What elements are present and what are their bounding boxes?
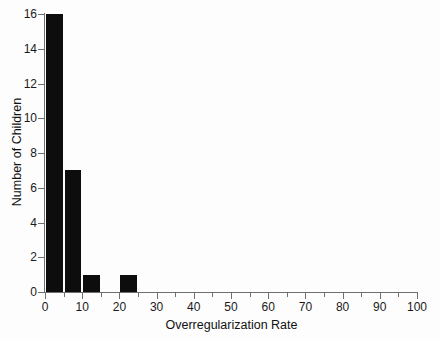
x-axis-tick-minor <box>250 293 251 297</box>
y-axis-tick <box>38 14 44 15</box>
x-axis-tick-label: 70 <box>285 300 325 314</box>
histogram-bar <box>82 275 101 292</box>
x-axis-tick-minor <box>175 293 176 297</box>
y-axis-tick <box>38 257 44 258</box>
x-axis-tick-label: 10 <box>62 300 102 314</box>
y-axis-line <box>44 13 45 293</box>
y-axis-tick <box>38 188 44 189</box>
histogram-bar <box>45 14 64 292</box>
y-axis-tick <box>38 153 44 154</box>
x-axis-tick <box>194 293 195 299</box>
x-axis-tick-label: 100 <box>397 300 437 314</box>
x-axis-tick-minor <box>324 293 325 297</box>
y-axis-tick <box>38 49 44 50</box>
x-axis-tick-label: 40 <box>174 300 214 314</box>
x-axis-tick-minor <box>361 293 362 297</box>
x-axis-tick-minor <box>398 293 399 297</box>
y-axis-tick <box>38 118 44 119</box>
x-axis-tick-minor <box>101 293 102 297</box>
y-axis-tick-label: 0 <box>1 286 37 298</box>
x-axis-tick-label: 90 <box>360 300 400 314</box>
x-axis-tick-label: 30 <box>137 300 177 314</box>
x-axis-tick <box>343 293 344 299</box>
x-axis-tick <box>45 293 46 299</box>
y-axis-tick <box>38 292 44 293</box>
y-axis-title: Number of Children <box>10 72 24 232</box>
histogram-bar <box>64 170 83 292</box>
x-axis-title: Overregularization Rate <box>45 318 418 332</box>
x-axis-tick <box>380 293 381 299</box>
histogram-chart: 0102030405060708090100 0246810121416 Ove… <box>0 0 440 340</box>
x-axis-tick <box>231 293 232 299</box>
x-axis-tick <box>268 293 269 299</box>
x-axis-tick-label: 20 <box>99 300 139 314</box>
x-axis-tick-minor <box>64 293 65 297</box>
x-axis-tick <box>305 293 306 299</box>
y-axis-tick-label: 16 <box>1 8 37 20</box>
x-axis-tick-minor <box>138 293 139 297</box>
histogram-bar <box>119 275 138 292</box>
x-axis-tick-label: 60 <box>248 300 288 314</box>
y-axis-tick-label: 2 <box>1 251 37 263</box>
y-axis-tick <box>38 84 44 85</box>
plot-area <box>45 14 417 292</box>
x-axis-tick-minor <box>287 293 288 297</box>
y-axis-tick-label: 14 <box>1 43 37 55</box>
x-axis-tick <box>82 293 83 299</box>
y-axis-tick <box>38 223 44 224</box>
x-axis-tick <box>417 293 418 299</box>
x-axis-tick-label: 80 <box>323 300 363 314</box>
x-axis-tick <box>119 293 120 299</box>
x-axis-tick-minor <box>212 293 213 297</box>
x-axis-tick <box>157 293 158 299</box>
x-axis-tick-label: 50 <box>211 300 251 314</box>
